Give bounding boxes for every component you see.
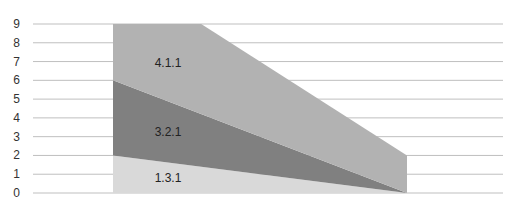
stacked-area-chart: 0123456789 1.3.13.2.14.1.1 bbox=[0, 0, 518, 209]
y-tick-label: 6 bbox=[13, 73, 20, 87]
y-tick-label: 3 bbox=[13, 130, 20, 144]
area-series bbox=[113, 0, 407, 193]
y-tick-label: 0 bbox=[13, 186, 20, 200]
y-tick-label: 9 bbox=[13, 17, 20, 31]
area-label: 1.3.1 bbox=[155, 171, 182, 185]
area-label: 4.1.1 bbox=[155, 56, 182, 70]
y-tick-label: 5 bbox=[13, 92, 20, 106]
y-tick-label: 7 bbox=[13, 55, 20, 69]
area-label: 3.2.1 bbox=[155, 125, 182, 139]
y-axis-ticks: 0123456789 bbox=[13, 17, 20, 200]
y-tick-label: 4 bbox=[13, 111, 20, 125]
y-tick-label: 2 bbox=[13, 148, 20, 162]
y-tick-label: 8 bbox=[13, 36, 20, 50]
y-tick-label: 1 bbox=[13, 167, 20, 181]
